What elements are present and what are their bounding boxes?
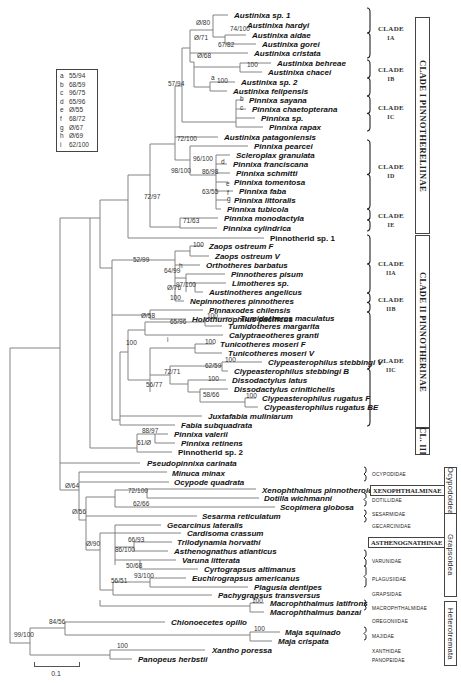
taxon-label: Nepinnotheres pinnotheres xyxy=(190,297,295,306)
clade-label: CLADEIB xyxy=(374,66,408,84)
support-value: 100 xyxy=(170,294,181,301)
clade-bracket xyxy=(367,60,370,96)
clade-label: CLADEIC xyxy=(374,104,408,122)
support-value: 72/97 xyxy=(144,193,161,200)
support-value: 62/59 xyxy=(205,362,222,369)
clade-label-sub: IIA xyxy=(374,269,408,278)
taxon-label: Pinnixa monodactyla xyxy=(224,214,305,223)
taxon-label: Maja crispata xyxy=(278,637,329,646)
taxon-label: Fabia subquadrata xyxy=(181,421,253,430)
taxon-label: Pinnixa retinens xyxy=(181,439,243,448)
taxon-label: Calyptraeotheres granti xyxy=(229,331,320,340)
taxon-label: Scopimera globosa xyxy=(280,503,354,512)
clade-bracket xyxy=(367,293,370,312)
taxon-label: Pinnixa tomentosa xyxy=(234,178,306,187)
subfamily-asthenognathinae: ASTHENOGNATHINAE xyxy=(368,537,445,548)
taxon-label: Zaops ostreum F xyxy=(208,242,275,251)
taxon-label: Cardisoma crassum xyxy=(187,529,263,538)
clade-label-sub: IC xyxy=(374,113,408,122)
clade-bracket xyxy=(367,235,370,293)
support-value: a xyxy=(211,74,215,81)
taxon-label: Austinixa gorei xyxy=(261,40,321,49)
taxon-label: Pinnixa littoralis xyxy=(234,196,296,205)
family-label: SESARMIDAE xyxy=(372,512,405,517)
legend-row-c: c96/75 xyxy=(60,89,94,98)
support-value: 72/100 xyxy=(177,135,197,142)
support-value: 100 xyxy=(193,241,204,248)
taxon-label: Clypeasterophilus rugatus F xyxy=(262,394,371,403)
taxon-label: Chionoecetes opilio xyxy=(171,618,247,627)
support-value: 100 xyxy=(254,625,265,632)
taxon-label: Maja squinado xyxy=(285,628,341,637)
family-bracket xyxy=(364,566,366,587)
clade-label-title: CLADE xyxy=(374,296,408,305)
taxon-label: Sesarma reticulatum xyxy=(202,512,281,521)
clade-bracket xyxy=(367,209,370,231)
superfamily-ocypodoidea-box: Ocypodoidea xyxy=(444,467,457,515)
support-value: 72/100 xyxy=(128,487,148,494)
taxon-label: Tunicotheres moseri V xyxy=(228,349,315,358)
support-value: 86/100 xyxy=(115,546,135,553)
clade-label-sub: IIB xyxy=(374,305,408,314)
clade-label: CLADEIIC xyxy=(374,357,408,375)
taxon-label: Austinixa behreae xyxy=(276,59,346,68)
support-value: 72/71 xyxy=(164,368,181,375)
support-value: 100 xyxy=(205,338,216,345)
taxon-label: Juxtafabia muliniarum xyxy=(208,412,293,421)
subfamily-xenophthalminae: XENOPHTHALMINAE xyxy=(370,485,445,496)
taxon-label: Austinixa sp. 2 xyxy=(240,78,298,87)
clade-label-title: CLADE xyxy=(374,212,408,221)
support-value: g xyxy=(227,195,231,203)
family-label: PANOPEIDAE xyxy=(372,658,405,663)
taxon-label: Macrophthalmus banzai xyxy=(270,608,362,617)
support-value: 71/63 xyxy=(183,217,200,224)
support-value: 93/100 xyxy=(134,572,154,579)
taxon-label: Pinnixa franciscana xyxy=(233,160,309,169)
support-value: 56/77 xyxy=(146,381,163,388)
support-value: i xyxy=(167,336,168,343)
taxon-label: Pinnotherid sp. 2 xyxy=(178,448,243,457)
support-value: 88/97 xyxy=(142,427,159,434)
taxon-label: Austinotheres angelicus xyxy=(208,288,302,297)
family-label: PLAGUSIIDAE xyxy=(372,577,406,582)
taxon-label: Austinixa sp. 1 xyxy=(233,11,291,20)
taxon-label: Clypeasterophilus stebbingi B xyxy=(234,367,349,376)
support-value: 74/100 xyxy=(230,25,250,32)
taxon-label: Pinnotheres pisum xyxy=(231,270,303,279)
support-value: Ø/58 xyxy=(141,312,155,319)
support-value: Ø/56 xyxy=(72,508,86,515)
clade-label-title: CLADE xyxy=(374,25,408,34)
support-legend: a55/94 b68/59 c96/75 d65/96 eØ/55 f68/72… xyxy=(56,69,98,152)
legend-row-b: b68/59 xyxy=(60,81,94,90)
taxon-label: Xantho poressa xyxy=(211,646,273,655)
phylogenetic-tree-figure: Austinixa sp. 1Austinixa hardyiAustinixa… xyxy=(0,0,461,683)
taxon-label: Panopeus herbstii xyxy=(138,655,208,664)
legend-row-f: f68/72 xyxy=(60,115,94,124)
clade-bracket xyxy=(367,140,370,209)
scale-bar: 0.1 xyxy=(34,662,80,677)
support-value: 99/100 xyxy=(14,631,34,638)
family-bracket xyxy=(364,627,366,640)
family-label: VARUNIDAE xyxy=(372,559,401,564)
superfamily-grapsoidea-box: Grapsoidea xyxy=(444,513,457,597)
taxon-label: Clypeasterophilus rugatus BE xyxy=(264,403,379,412)
support-value: 86/98 xyxy=(202,168,219,175)
family-label: GRAPSIDAE xyxy=(372,592,402,597)
support-value: 98/100 xyxy=(171,167,191,174)
taxon-label: Varuna litterata xyxy=(182,556,240,565)
taxon-label: Tunicotheres moseri F xyxy=(220,340,307,349)
taxon-label: Euchirograpsus americanus xyxy=(192,574,300,583)
clade-bracket xyxy=(367,96,370,131)
support-value: 100 xyxy=(217,77,228,84)
taxon-label: Pinnixa tubicola xyxy=(227,205,289,214)
support-value: Ø/76 xyxy=(167,284,181,291)
taxon-label: Pinnixa faba xyxy=(239,187,287,196)
scale-bar-label: 0.1 xyxy=(34,670,78,677)
taxon-label: Austinixa hardyi xyxy=(246,21,310,30)
taxon-label: Tumidotheres margarita xyxy=(228,322,320,331)
taxon-label: Scleroplax granulata xyxy=(236,151,315,160)
support-value: 52/99 xyxy=(133,256,150,263)
support-value: 67/82 xyxy=(218,41,235,48)
clade-bracket xyxy=(367,8,370,58)
taxon-label: Pinnixa cylindrica xyxy=(223,224,292,233)
